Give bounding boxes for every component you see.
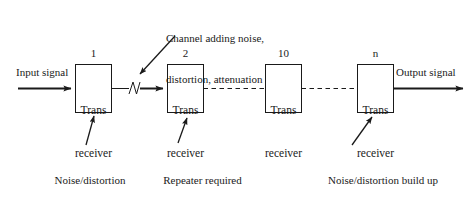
repeater-chain-diagram: Channel adding noise, distortion, attenu… — [0, 0, 475, 197]
channel-break-symbol — [129, 82, 140, 94]
node-body-n-line-1: Trans — [357, 103, 395, 117]
caption-node-2: Repeater required to boost signal. Noise… — [135, 146, 270, 197]
output-signal-label: Output signal — [396, 66, 456, 79]
caption-node-n: Noise/distortion build up prevents furth… — [297, 146, 469, 197]
caption-node-2-line-1: Repeater required — [135, 174, 270, 188]
node-number-1: 1 — [74, 47, 114, 60]
node-body-1-line-1: Trans — [75, 103, 113, 117]
input-signal-label: Input signal — [16, 66, 68, 79]
channel-annotation-line-1: Channel adding noise, — [166, 32, 346, 46]
node-body-2-line-1: Trans — [167, 103, 205, 117]
node-number-2: 2 — [166, 47, 206, 60]
caption-node-n-line-1: Noise/distortion build up — [297, 174, 469, 188]
node-number-10: 10 — [264, 47, 304, 60]
node-number-n: n — [356, 47, 396, 60]
caption-node-1: Noise/distortion added — [30, 146, 150, 197]
node-body-10-line-1: Trans — [265, 103, 303, 117]
caption-node-1-line-1: Noise/distortion — [30, 174, 150, 188]
